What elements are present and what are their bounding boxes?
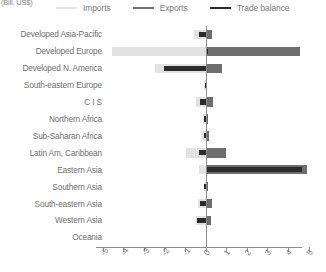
chart-row: Sub-Saharan Africa <box>0 127 326 144</box>
bar-trade-balance <box>206 167 303 172</box>
x-axis-tick-label: 2 <box>243 248 253 257</box>
bar-group <box>0 26 326 43</box>
legend-label-imports: Imports <box>83 3 111 13</box>
bar-group <box>0 229 326 246</box>
bar-group <box>0 144 326 161</box>
chart-root: (Bill. US$) Imports Exports Trade balanc… <box>0 0 326 272</box>
bar-group <box>0 212 326 229</box>
bar-group <box>0 43 326 60</box>
chart-row: Developed Europe <box>0 43 326 60</box>
x-axis-tick-label: 1 <box>222 248 232 257</box>
legend-item-imports: Imports <box>56 3 111 13</box>
bar-imports <box>112 47 206 57</box>
chart-row: Latin Am, Caribbean <box>0 144 326 161</box>
plot-area: Developed Asia-PacificDeveloped EuropeDe… <box>0 26 326 246</box>
bar-trade-balance <box>164 66 205 71</box>
bar-exports <box>206 97 213 107</box>
chart-row: South-eastern Europe <box>0 77 326 94</box>
chart-legend: Imports Exports Trade balance <box>56 2 290 14</box>
legend-swatch-trade-balance <box>210 7 231 10</box>
chart-row: Oceania <box>0 229 326 246</box>
x-axis-tick-label: 5 <box>305 248 315 257</box>
legend-swatch-exports <box>133 7 154 10</box>
legend-swatch-imports <box>56 7 77 10</box>
chart-row: Northern Africa <box>0 111 326 128</box>
bar-exports <box>206 47 301 57</box>
legend-label-exports: Exports <box>160 3 188 13</box>
chart-row: Developed N. America <box>0 60 326 77</box>
legend-item-exports: Exports <box>133 3 188 13</box>
bar-group <box>0 94 326 111</box>
bar-trade-balance <box>197 218 205 223</box>
x-axis-tick-label: 4 <box>284 248 294 257</box>
chart-row: Developed Asia-Pacific <box>0 26 326 43</box>
legend-item-trade-balance: Trade balance <box>210 3 290 13</box>
bar-group <box>0 161 326 178</box>
chart-row: South-eastern Asia <box>0 195 326 212</box>
chart-row: Western Asia <box>0 212 326 229</box>
bar-group <box>0 111 326 128</box>
bar-group <box>0 195 326 212</box>
bar-group <box>0 178 326 195</box>
chart-row: Southern Asia <box>0 178 326 195</box>
bar-exports <box>206 64 222 74</box>
x-axis-tick-label: 0 <box>202 248 212 257</box>
bar-group <box>0 60 326 77</box>
x-axis-line <box>96 247 302 248</box>
x-axis-tick-label: 3 <box>263 248 273 257</box>
zero-reference-line <box>206 26 207 248</box>
units-label: (Bill. US$) <box>1 0 33 7</box>
chart-row: C I S <box>0 94 326 111</box>
bar-group <box>0 127 326 144</box>
bar-group <box>0 77 326 94</box>
chart-row: Eastern Asia <box>0 161 326 178</box>
bar-exports <box>206 148 227 158</box>
legend-label-trade-balance: Trade balance <box>237 3 290 13</box>
